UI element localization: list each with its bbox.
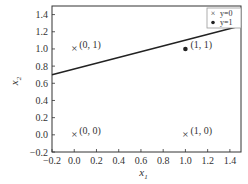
data-point-label: (0, 0)	[79, 125, 101, 137]
legend-x-marker-icon: ×	[211, 9, 216, 18]
x-tick-label: 0.8	[157, 155, 170, 166]
x-tick-label: 1.2	[201, 155, 214, 166]
data-point-x-marker: ×	[71, 128, 77, 140]
data-point-dot-marker	[183, 47, 188, 52]
legend-dot-marker-icon	[211, 21, 215, 25]
x-tick-label: 1.0	[179, 155, 192, 166]
data-point-x-marker: ×	[182, 128, 188, 140]
y-tick-label: 1.4	[36, 9, 49, 20]
data-point-x-marker: ×	[71, 42, 77, 54]
legend-label: y=0	[220, 9, 233, 18]
y-tick-label: 1.2	[36, 26, 49, 37]
data-point-label: (1, 1)	[190, 39, 212, 51]
x-tick-label: 0.0	[68, 155, 81, 166]
x-tick-label: 0.6	[135, 155, 148, 166]
y-tick-label: −0.2	[30, 147, 48, 158]
y-tick-label: 0.6	[36, 78, 49, 89]
y-tick-label: 0.0	[36, 129, 49, 140]
data-point-label: (0, 1)	[79, 39, 101, 51]
x-tick-label: 0.4	[112, 155, 125, 166]
chart-canvas: −0.20.00.20.40.60.81.01.21.4−0.20.00.20.…	[0, 0, 248, 184]
data-point-label: (1, 0)	[190, 125, 212, 137]
y-axis-label: x2	[8, 76, 23, 86]
x-tick-label: 0.2	[90, 155, 103, 166]
y-tick-label: 0.8	[36, 61, 49, 72]
legend-label: y=1	[220, 18, 233, 27]
x-tick-label: 1.4	[224, 155, 237, 166]
decision-boundary-line	[52, 26, 241, 75]
y-tick-label: 0.2	[36, 112, 49, 123]
y-tick-label: 0.4	[36, 95, 49, 106]
x-axis-label: x1	[138, 166, 147, 181]
y-tick-label: 1.0	[36, 43, 49, 54]
